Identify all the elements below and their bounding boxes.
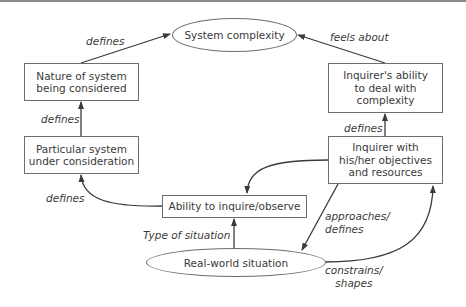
node-system-complexity: System complexity	[172, 18, 297, 52]
edge-label-realworld-to-inquirer: constrains/ shapes	[325, 264, 383, 289]
node-ability-to-inquire: Ability to inquire/observe	[162, 195, 307, 218]
edge-label-inquirer-ability-to-complexity: feels about	[330, 31, 389, 44]
edge-label-ability-to-particular: defines	[46, 192, 85, 205]
edge-label-particular-to-nature: defines	[41, 113, 80, 126]
node-particular-system: Particular system under consideration	[24, 136, 139, 174]
arrow-inquirer-to-ability	[247, 160, 328, 193]
node-inquirer-ability: Inquirer's ability to deal with complexi…	[328, 63, 443, 113]
node-label: Real-world situation	[184, 257, 288, 269]
edge-label-inquirer-to-realworld: approaches/ defines	[325, 210, 390, 235]
arrow-ability-to-particular	[81, 175, 162, 206]
node-real-world-situation: Real-world situation	[146, 248, 326, 277]
edge-label-realworld-to-ability: Type of situation	[143, 229, 230, 242]
node-label: System complexity	[184, 29, 284, 41]
edge-label-inquirer-to-inquirer-ability: defines	[344, 122, 383, 135]
node-nature-of-system: Nature of system being considered	[24, 63, 139, 101]
edge-label-nature-to-complexity: defines	[86, 35, 125, 48]
node-inquirer: Inquirer with his/her objectives and res…	[328, 136, 443, 184]
